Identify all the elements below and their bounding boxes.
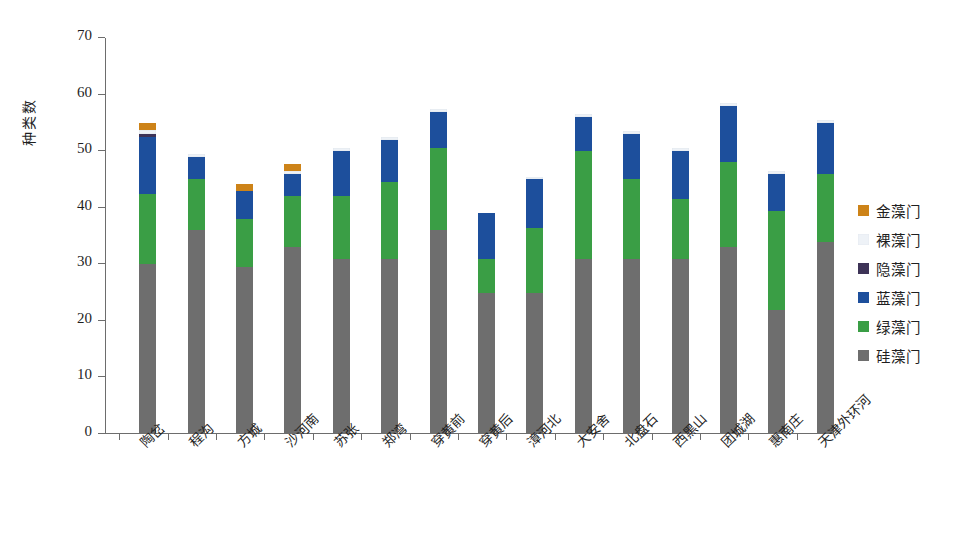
- bar-segment: [333, 148, 350, 151]
- bar-segment: [284, 174, 301, 197]
- y-axis-tick-label: 40: [77, 197, 92, 214]
- y-axis-tick: 30: [98, 263, 105, 264]
- plot-area: 010203040506070: [105, 38, 831, 434]
- bar-segment: [768, 211, 785, 310]
- bar-segment: [139, 130, 156, 134]
- bar-segment: [139, 194, 156, 265]
- bar-segment: [817, 120, 834, 123]
- x-axis-labels: 陶岔程沟方城沙河南苏张郑湾穿黄前穿黄后漳河北大安舍北盘石西黑山团城湖惠南庄天津外…: [105, 437, 865, 549]
- y-axis-line: [105, 38, 106, 434]
- bar-segment: [623, 179, 640, 258]
- bar-segment: [720, 247, 737, 434]
- legend-swatch-icon: [858, 292, 869, 303]
- bar-segment: [236, 267, 253, 434]
- y-axis-tick: 40: [98, 207, 105, 208]
- bar-segment: [284, 164, 301, 171]
- y-axis-tick: 10: [98, 376, 105, 377]
- bar-segment: [478, 213, 495, 258]
- bar-segment: [430, 112, 447, 149]
- bar-segment: [236, 219, 253, 267]
- bar-segment: [720, 162, 737, 247]
- bar-segment: [672, 199, 689, 258]
- y-axis-tick: 70: [98, 37, 105, 38]
- stacked-bar-chart: 种类数 010203040506070 陶岔程沟方城沙河南苏张郑湾穿黄前穿黄后漳…: [0, 0, 964, 549]
- bar-segment: [188, 154, 205, 157]
- legend-swatch-icon: [858, 321, 869, 332]
- y-axis-tick-label: 0: [85, 423, 93, 440]
- bar-segment: [526, 177, 543, 180]
- bar-segment: [381, 140, 398, 182]
- bar-segment: [768, 174, 785, 211]
- bar-segment: [188, 230, 205, 434]
- bar-segment: [623, 131, 640, 134]
- bar-segment: [478, 293, 495, 434]
- legend-label: 硅藻门: [876, 345, 921, 366]
- bar-segment: [284, 196, 301, 247]
- legend-swatch-icon: [858, 263, 869, 274]
- bar-segment: [526, 293, 543, 434]
- y-axis-tick: 60: [98, 94, 105, 95]
- y-axis-tick-label: 10: [77, 366, 92, 383]
- bar-segment: [575, 117, 592, 151]
- bar-segment: [768, 310, 785, 434]
- bar-segment: [672, 151, 689, 199]
- bar-segment: [430, 230, 447, 434]
- y-axis-title: 种类数: [18, 62, 38, 182]
- bar-segment: [623, 259, 640, 434]
- legend-swatch-icon: [858, 234, 869, 245]
- legend-item-1[interactable]: 金藻门: [858, 196, 958, 225]
- bar-segment: [139, 137, 156, 194]
- bar-segment: [139, 134, 156, 137]
- bar-segment: [526, 228, 543, 293]
- bar-segment: [236, 184, 253, 191]
- y-axis-tick: 20: [98, 320, 105, 321]
- y-axis-tick: 50: [98, 150, 105, 151]
- bar-segment: [333, 196, 350, 258]
- bar-segment: [381, 182, 398, 258]
- y-axis-tick-label: 70: [77, 27, 92, 44]
- legend-item-2[interactable]: 裸藻门: [858, 225, 958, 254]
- chart-legend: 金藻门裸藻门隐藻门蓝藻门绿藻门硅藻门: [858, 196, 958, 370]
- bar-segment: [478, 259, 495, 293]
- legend-item-5[interactable]: 绿藻门: [858, 312, 958, 341]
- bar-segment: [188, 179, 205, 230]
- bar-segment: [575, 259, 592, 434]
- legend-item-3[interactable]: 隐藻门: [858, 254, 958, 283]
- bar-segment: [188, 157, 205, 180]
- legend-swatch-icon: [858, 205, 869, 216]
- legend-item-6[interactable]: 硅藻门: [858, 341, 958, 370]
- bar-segment: [526, 179, 543, 227]
- bar-segment: [139, 123, 156, 130]
- bar-segment: [817, 242, 834, 434]
- bar-segment: [430, 148, 447, 230]
- bar-segment: [768, 171, 785, 174]
- bar-segment: [284, 247, 301, 434]
- bar-segment: [720, 106, 737, 163]
- bar-segment: [672, 259, 689, 434]
- legend-label: 裸藻门: [876, 229, 921, 250]
- legend-swatch-icon: [858, 350, 869, 361]
- bar-segment: [817, 123, 834, 174]
- bar-segment: [430, 109, 447, 112]
- y-axis-tick-label: 60: [77, 84, 92, 101]
- bar-segment: [575, 151, 592, 258]
- y-axis-tick-label: 30: [77, 253, 92, 270]
- bar-segment: [236, 191, 253, 219]
- bar-segment: [575, 114, 592, 117]
- bar-segment: [672, 148, 689, 151]
- bar-segment: [817, 174, 834, 242]
- legend-label: 金藻门: [876, 200, 921, 221]
- legend-label: 蓝藻门: [876, 287, 921, 308]
- y-axis-tick: 0: [98, 433, 105, 434]
- y-axis-tick-label: 20: [77, 310, 92, 327]
- bar-segment: [381, 137, 398, 140]
- bar-segment: [720, 103, 737, 106]
- legend-label: 绿藻门: [876, 316, 921, 337]
- bar-segment: [623, 134, 640, 179]
- legend-item-4[interactable]: 蓝藻门: [858, 283, 958, 312]
- legend-label: 隐藻门: [876, 258, 921, 279]
- bar-segment: [381, 259, 398, 434]
- bar-segment: [139, 264, 156, 434]
- bar-segment: [333, 259, 350, 434]
- bar-segment: [284, 171, 301, 174]
